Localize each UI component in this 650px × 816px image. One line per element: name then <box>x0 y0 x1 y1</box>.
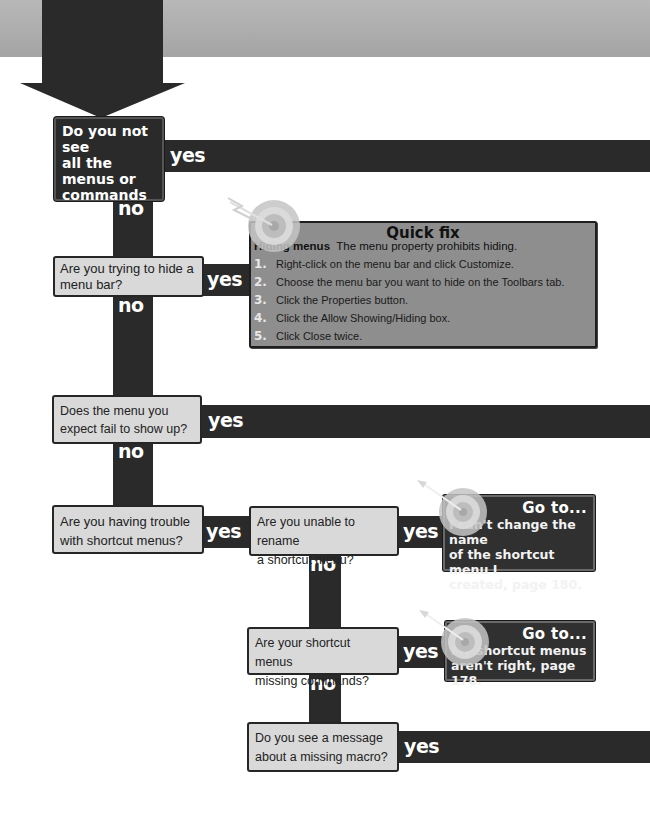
goto-title-1: Go to... <box>522 499 587 517</box>
question-text-3-line-2: expect fail to show up? <box>60 420 194 438</box>
question-text-6-line-1: Are your shortcut menus <box>255 634 391 672</box>
quick-fix-step-4: 4.Click the Allow Showing/Hiding box. <box>254 311 450 325</box>
down-arrow-icon <box>0 0 200 122</box>
quick-fix-panel: Quick fix Hiding menus The menu property… <box>249 221 597 348</box>
question-box-4[interactable]: Are you having trouble with shortcut men… <box>52 505 204 554</box>
quick-fix-step-2: 2.Choose the menu bar you want to hide o… <box>254 275 564 289</box>
yes-label-1: yes <box>170 146 205 165</box>
yes-label-3: yes <box>208 411 243 430</box>
question-box-5[interactable]: Are you unable to rename a shortcut menu… <box>249 506 399 556</box>
question-text-2-line-2: menu bar? <box>60 277 197 293</box>
question-text-3-line-1: Does the menu you <box>60 402 194 420</box>
question-text-5-line-1: Are you unable to rename <box>257 513 391 551</box>
yes-label-4: yes <box>206 522 241 541</box>
target-with-arrow-icon <box>415 608 490 668</box>
question-box-6[interactable]: Are your shortcut menus missing commands… <box>247 627 399 675</box>
yes-label-7: yes <box>404 737 439 756</box>
no-label-2: no <box>118 296 144 315</box>
question-box-1[interactable]: Do you not see all the menus or commands… <box>54 117 164 201</box>
yes-branch-bar-3 <box>198 405 650 438</box>
no-label-3: no <box>118 442 144 461</box>
question-box-2[interactable]: Are you trying to hide a menu bar? <box>53 256 204 297</box>
question-text-6-line-2: missing commands? <box>255 672 391 691</box>
question-text-7-line-1: Do you see a message <box>255 729 391 748</box>
goto-title-2: Go to... <box>522 625 587 643</box>
question-text-5-line-2: a shortcut menu? <box>257 551 391 570</box>
question-text-4-line-1: Are you having trouble <box>60 512 196 531</box>
question-box-7[interactable]: Do you see a message about a missing mac… <box>247 722 399 772</box>
quick-fix-step-5: 5.Click Close twice. <box>254 329 362 343</box>
question-text-1: Do you not see all the menus or commands… <box>62 123 156 235</box>
yes-branch-bar-1 <box>160 140 650 172</box>
quick-fix-step-3: 3.Click the Properties button. <box>254 293 408 307</box>
target-with-arrow-icon <box>415 478 490 538</box>
question-text-7-line-2: about a missing macro? <box>255 748 391 767</box>
question-box-3[interactable]: Does the menu you expect fail to show up… <box>52 395 202 444</box>
question-text-4-line-2: with shortcut menus? <box>60 531 196 550</box>
target-with-arrow-icon <box>220 196 300 256</box>
quick-fix-step-1: 1.Right-click on the menu bar and click … <box>254 257 514 271</box>
question-text-2-line-1: Are you trying to hide a <box>60 261 197 277</box>
yes-label-2: yes <box>207 270 242 289</box>
